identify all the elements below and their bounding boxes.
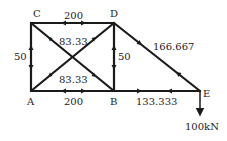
node-label-c: C [33,8,41,19]
force-label-ab: 200 [64,96,83,107]
force-label-ad: 83.33 [59,74,88,85]
force-label-cd: 200 [64,10,83,21]
load-label: 100kN [185,121,219,132]
force-label-cb: 83.33 [59,36,88,47]
node-label-a: A [26,96,35,107]
force-label-de: 166.667 [153,41,194,52]
node-label-d: D [110,8,118,19]
force-label-be: 133.333 [136,96,177,107]
force-label-ac: 50 [14,51,27,62]
node-label-e: E [203,88,210,99]
force-label-bd: 50 [118,51,131,62]
truss-diagram: C D A B E 200 200 50 50 83.33 83.33 166.… [0,0,227,141]
node-label-b: B [110,96,117,107]
